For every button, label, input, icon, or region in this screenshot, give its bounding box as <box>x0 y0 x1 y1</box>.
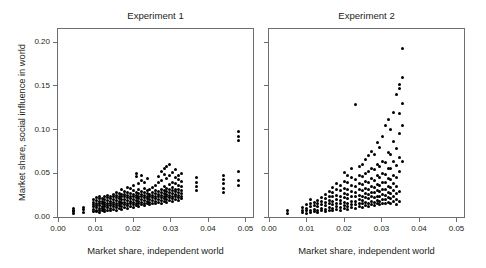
data-point <box>354 203 357 206</box>
data-point <box>195 189 198 192</box>
data-point <box>392 111 395 114</box>
data-point <box>313 204 316 207</box>
data-point <box>157 181 160 184</box>
data-point <box>140 174 143 177</box>
data-point <box>305 212 308 215</box>
data-point <box>313 210 316 213</box>
y-axis-label: Market share, social influence in world <box>16 23 27 223</box>
data-point <box>331 195 334 198</box>
data-point <box>354 185 357 188</box>
data-point <box>361 183 364 186</box>
data-point <box>398 170 401 173</box>
data-point <box>222 182 225 185</box>
data-point <box>180 172 183 175</box>
data-point <box>316 211 319 214</box>
data-point <box>373 179 376 182</box>
data-point <box>358 165 361 168</box>
x-tick-label: 0.03 <box>366 224 398 233</box>
data-point <box>398 112 401 115</box>
x-tick-label: 0.00 <box>253 224 285 233</box>
data-point <box>346 208 349 211</box>
data-point <box>361 175 364 178</box>
data-point <box>165 177 168 180</box>
x-tick-mark <box>208 218 209 222</box>
data-point <box>324 197 327 200</box>
data-point <box>343 180 346 183</box>
data-point <box>301 206 304 209</box>
x-tick-label: 0.01 <box>291 224 323 233</box>
data-point <box>222 178 225 181</box>
data-point <box>358 182 361 185</box>
data-point <box>320 207 323 210</box>
data-point <box>354 195 357 198</box>
data-point <box>237 139 240 142</box>
data-point <box>389 167 392 170</box>
data-point <box>335 202 338 205</box>
data-point <box>237 135 240 138</box>
data-point <box>309 202 312 205</box>
data-point <box>135 175 138 178</box>
data-point <box>168 174 171 177</box>
data-point <box>401 76 404 79</box>
x-tick-mark <box>456 218 457 222</box>
data-point <box>354 178 357 181</box>
figure-scatter-panels: Market share, social influence in world … <box>0 0 486 268</box>
y-tick-label: 0.05 <box>13 168 50 177</box>
data-point <box>343 196 346 199</box>
data-point <box>343 171 346 174</box>
data-point <box>367 154 370 157</box>
data-point <box>331 203 334 206</box>
data-point <box>346 205 349 208</box>
data-point <box>237 170 240 173</box>
y-tick-mark <box>53 129 57 130</box>
data-point <box>392 140 395 143</box>
data-point <box>346 174 349 177</box>
x-tick-label: 0.01 <box>80 224 112 233</box>
data-point <box>195 185 198 188</box>
data-point <box>195 176 198 179</box>
data-point <box>157 175 160 178</box>
data-point <box>350 184 353 187</box>
data-point <box>309 198 312 201</box>
data-point <box>370 150 373 153</box>
data-point <box>384 181 387 184</box>
data-point <box>389 178 392 181</box>
data-point <box>160 179 163 182</box>
data-point <box>401 102 404 105</box>
data-point <box>350 176 353 179</box>
data-point <box>309 209 312 212</box>
y-tick-label: 0.20 <box>13 37 50 46</box>
data-point <box>305 203 308 206</box>
data-point <box>195 181 198 184</box>
data-point <box>395 93 398 96</box>
x-axis-label-experiment-1: Market share, independent world <box>57 245 254 256</box>
data-point <box>389 128 392 131</box>
data-point <box>339 199 342 202</box>
data-point <box>339 209 342 212</box>
data-point <box>373 204 376 207</box>
data-point <box>180 197 183 200</box>
y-tick-mark <box>53 217 57 218</box>
y-tick-mark <box>264 42 268 43</box>
data-point <box>346 202 349 205</box>
data-point <box>358 205 361 208</box>
data-point <box>378 165 381 168</box>
y-tick-mark <box>264 217 268 218</box>
data-point <box>343 207 346 210</box>
y-tick-mark <box>53 42 57 43</box>
data-point <box>384 161 387 164</box>
x-tick-label: 0.04 <box>403 224 435 233</box>
data-point <box>358 194 361 197</box>
data-point <box>324 193 327 196</box>
data-point <box>395 176 398 179</box>
data-point <box>335 205 338 208</box>
data-point <box>343 187 346 190</box>
data-point <box>343 201 346 204</box>
x-tick-mark <box>381 218 382 222</box>
x-tick-label: 0.05 <box>441 224 473 233</box>
y-tick-mark <box>264 129 268 130</box>
data-point <box>222 187 225 190</box>
data-point <box>339 206 342 209</box>
data-point <box>401 47 404 50</box>
data-point <box>395 203 398 206</box>
